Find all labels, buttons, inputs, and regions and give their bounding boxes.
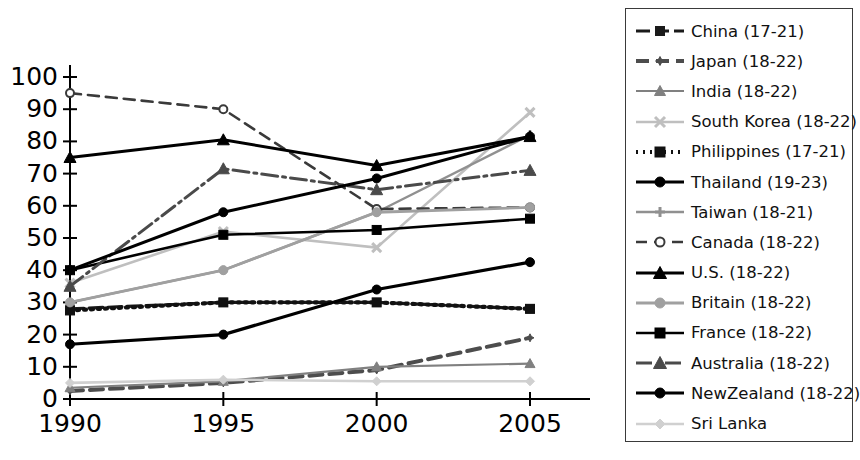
legend-item-label: China (17-21) bbox=[691, 22, 804, 41]
legend-item-taiwan-18-21[interactable]: Taiwan (18-21) bbox=[634, 197, 852, 227]
data-point-marker bbox=[656, 27, 665, 36]
x-axis-tick-label: 2000 bbox=[322, 411, 432, 436]
legend-item-newzealand-18-22[interactable]: NewZealand (18-22) bbox=[634, 378, 852, 408]
legend-item-thailand-19-23[interactable]: Thailand (19-23) bbox=[634, 167, 852, 197]
data-point-marker bbox=[372, 285, 381, 294]
series-u-s-18-22 bbox=[64, 131, 536, 171]
data-point-marker bbox=[219, 298, 228, 307]
legend-item-label: Japan (18-22) bbox=[691, 52, 803, 71]
legend-swatch-icon bbox=[634, 383, 686, 403]
legend-swatch-icon bbox=[634, 414, 686, 434]
data-point-marker bbox=[526, 214, 535, 223]
legend-item-france-18-22[interactable]: France (18-22) bbox=[634, 318, 852, 348]
legend-line-icon bbox=[634, 142, 686, 162]
legend-item-label: Canada (18-22) bbox=[691, 233, 820, 252]
legend-item-japan-18-22[interactable]: Japan (18-22) bbox=[634, 46, 852, 76]
legend-item-u-s-18-22[interactable]: U.S. (18-22) bbox=[634, 258, 852, 288]
legend-item-australia-18-22[interactable]: Australia (18-22) bbox=[634, 348, 852, 378]
y-axis-tick-label: 60 bbox=[26, 193, 58, 218]
legend-item-label: France (18-22) bbox=[691, 323, 812, 342]
legend-swatch-icon bbox=[634, 323, 686, 343]
x-axis-tick-label: 1990 bbox=[15, 411, 125, 436]
legend-line-icon bbox=[634, 172, 686, 192]
legend-item-label: NewZealand (18-22) bbox=[691, 384, 860, 403]
legend-line-icon bbox=[634, 112, 686, 132]
legend-line-icon bbox=[634, 51, 686, 71]
y-axis-tick-label: 40 bbox=[26, 257, 58, 282]
data-point-marker bbox=[654, 357, 667, 369]
legend-swatch-icon bbox=[634, 263, 686, 283]
plot-area: 0102030405060708090100 1990199520002005 bbox=[0, 0, 620, 460]
y-axis-tick-label: 100 bbox=[10, 64, 58, 89]
y-axis-tick-label: 70 bbox=[26, 161, 58, 186]
data-point-marker bbox=[656, 57, 665, 66]
y-axis-tick-label: 80 bbox=[26, 128, 58, 153]
data-point-marker bbox=[66, 378, 75, 387]
legend-item-philippines-17-21[interactable]: Philippines (17-21) bbox=[634, 137, 852, 167]
legend-item-label: Australia (18-22) bbox=[691, 354, 830, 373]
legend-line-icon bbox=[634, 293, 686, 313]
data-point-marker bbox=[219, 330, 228, 339]
legend-swatch-icon bbox=[634, 172, 686, 192]
series-australia-18-22 bbox=[64, 163, 536, 292]
data-point-marker bbox=[526, 377, 535, 386]
data-point-marker bbox=[219, 105, 227, 113]
legend-swatch-icon bbox=[634, 51, 686, 71]
legend-swatch-icon bbox=[634, 81, 686, 101]
legend-item-label: South Korea (18-22) bbox=[691, 112, 857, 131]
data-point-marker bbox=[655, 298, 665, 308]
y-axis-tick-label: 90 bbox=[26, 96, 58, 121]
legend-item-canada-18-22[interactable]: Canada (18-22) bbox=[634, 227, 852, 257]
data-point-marker bbox=[372, 298, 381, 307]
data-point-marker bbox=[66, 89, 74, 97]
data-point-marker bbox=[372, 377, 381, 386]
legend-item-india-18-22[interactable]: India (18-22) bbox=[634, 76, 852, 106]
data-point-marker bbox=[526, 258, 535, 267]
chart-legend: China (17-21)Japan (18-22)India (18-22)S… bbox=[625, 8, 853, 442]
legend-item-label: India (18-22) bbox=[691, 82, 798, 101]
data-point-marker bbox=[219, 230, 228, 239]
series-line bbox=[70, 302, 530, 310]
series-line bbox=[70, 169, 530, 287]
legend-line-icon bbox=[634, 323, 686, 343]
legend-line-icon bbox=[634, 232, 686, 252]
legend-item-label: U.S. (18-22) bbox=[691, 263, 790, 282]
data-point-marker bbox=[219, 266, 228, 275]
legend-item-south-korea-18-22[interactable]: South Korea (18-22) bbox=[634, 107, 852, 137]
series-line bbox=[70, 135, 530, 302]
y-axis-tick-label: 10 bbox=[26, 354, 58, 379]
data-point-marker bbox=[372, 225, 381, 234]
data-point-marker bbox=[66, 298, 75, 307]
data-point-marker bbox=[372, 208, 381, 217]
legend-swatch-icon bbox=[634, 21, 686, 41]
data-point-marker bbox=[526, 132, 535, 141]
series-line bbox=[70, 112, 530, 283]
y-axis-tick-label: 20 bbox=[26, 322, 58, 347]
legend-swatch-icon bbox=[634, 112, 686, 132]
series-taiwan-18-21 bbox=[66, 130, 535, 306]
legend-line-icon bbox=[634, 414, 686, 434]
data-point-marker bbox=[655, 147, 665, 157]
legend-line-icon bbox=[634, 263, 686, 283]
legend-item-britain-18-22[interactable]: Britain (18-22) bbox=[634, 288, 852, 318]
data-point-marker bbox=[655, 419, 665, 429]
legend-item-label: Philippines (17-21) bbox=[691, 142, 846, 161]
data-point-marker bbox=[655, 177, 665, 187]
legend-item-sri-lanka[interactable]: Sri Lanka bbox=[634, 408, 852, 438]
legend-line-icon bbox=[634, 353, 686, 373]
legend-swatch-icon bbox=[634, 293, 686, 313]
legend-swatch-icon bbox=[634, 353, 686, 373]
legend-item-label: Thailand (19-23) bbox=[691, 173, 828, 192]
x-axis-tick-label: 2005 bbox=[475, 411, 585, 436]
data-point-marker bbox=[655, 388, 665, 398]
y-axis-tick-label: 50 bbox=[26, 225, 58, 250]
legend-item-china-17-21[interactable]: China (17-21) bbox=[634, 16, 852, 46]
legend-line-icon bbox=[634, 21, 686, 41]
legend-swatch-icon bbox=[634, 232, 686, 252]
data-point-marker bbox=[66, 340, 75, 349]
data-point-marker bbox=[66, 266, 75, 275]
series-line bbox=[70, 380, 530, 383]
data-point-marker bbox=[372, 174, 381, 183]
legend-item-label: Taiwan (18-21) bbox=[691, 203, 813, 222]
